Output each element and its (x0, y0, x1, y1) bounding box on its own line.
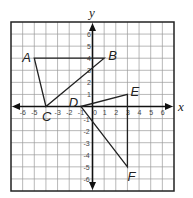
x-axis-arrow-right-icon (165, 103, 173, 110)
axes (12, 23, 173, 190)
x-axis-label: x (177, 99, 184, 114)
x-tick-label: 6 (161, 109, 165, 116)
x-tick-label: -3 (55, 109, 61, 116)
y-tick-label: -6 (84, 176, 90, 183)
y-tick-label: 6 (87, 31, 91, 38)
point-label-b: B (108, 48, 117, 63)
point-labels: ABCDEF (21, 48, 139, 184)
x-tick-label: 5 (149, 109, 153, 116)
y-tick-label: 2 (87, 79, 91, 86)
point-label-a: A (21, 50, 31, 65)
y-tick-label: -2 (84, 128, 90, 135)
y-axis-arrow-up-icon (89, 23, 96, 31)
y-tick-label: -4 (84, 152, 90, 159)
coordinate-plane: -6-5-3-2-10123456654321-1-2-3-4-5-6 ABCD… (0, 0, 193, 198)
y-axis-arrow-down-icon (89, 182, 96, 190)
x-tick-label: 2 (114, 109, 118, 116)
y-tick-label: 5 (87, 43, 91, 50)
point-label-f: F (127, 169, 136, 184)
x-tick-label: -6 (20, 109, 26, 116)
x-tick-label: -5 (31, 109, 37, 116)
x-tick-label: -2 (66, 109, 72, 116)
x-tick-label: 1 (103, 109, 107, 116)
x-tick-label: 4 (138, 109, 142, 116)
y-tick-label: -5 (84, 164, 90, 171)
point-label-c: C (42, 109, 52, 124)
point-label-d: D (69, 95, 78, 110)
y-tick-label: 1 (87, 91, 91, 98)
y-tick-label: -3 (84, 140, 90, 147)
y-axis-label: y (87, 5, 95, 20)
x-tick-label: 0 (93, 109, 97, 116)
point-label-e: E (130, 84, 139, 99)
